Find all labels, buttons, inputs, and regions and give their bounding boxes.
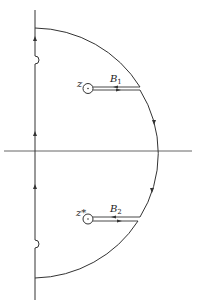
arrow-right-icon bbox=[116, 89, 121, 92]
label-z: z bbox=[76, 78, 83, 89]
outer-arc-lower bbox=[35, 221, 138, 278]
pole-dot-upper bbox=[87, 88, 89, 90]
arrow-left-icon bbox=[111, 216, 116, 219]
label-z-star: z* bbox=[75, 207, 86, 218]
imaginary-axis-contour bbox=[35, 10, 39, 300]
contour-diagram: z B1 z* B2 bbox=[0, 0, 199, 306]
arrow-down-icon bbox=[152, 120, 156, 125]
arrow-down-icon bbox=[150, 188, 154, 193]
arrow-up-icon bbox=[33, 36, 37, 41]
pole-dot-lower bbox=[87, 218, 89, 220]
arrow-right-icon bbox=[117, 220, 122, 223]
label-b1: B1 bbox=[109, 73, 122, 86]
arrow-up-icon bbox=[33, 184, 37, 189]
outer-arc-middle bbox=[140, 90, 158, 217]
label-b2: B2 bbox=[109, 203, 122, 216]
outer-arc-upper bbox=[35, 28, 140, 87]
arrow-up-icon bbox=[33, 131, 37, 136]
